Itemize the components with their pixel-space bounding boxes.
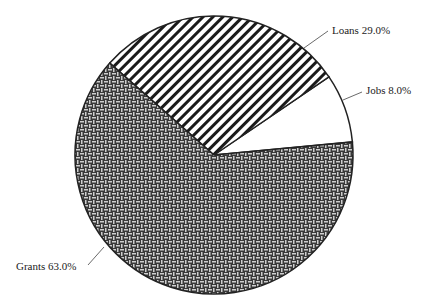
slice-label-loans: Loans 29.0%	[332, 24, 390, 36]
slice-label-grants: Grants 63.0%	[16, 260, 77, 272]
leader-line-loans	[304, 31, 328, 48]
slice-label-jobs: Jobs 8.0%	[366, 84, 411, 96]
pie-chart: Jobs 8.0%Loans 29.0%Grants 63.0%	[0, 0, 423, 308]
pie-slices	[75, 16, 353, 294]
leader-line-grants	[88, 247, 104, 265]
leader-line-jobs	[343, 92, 362, 100]
